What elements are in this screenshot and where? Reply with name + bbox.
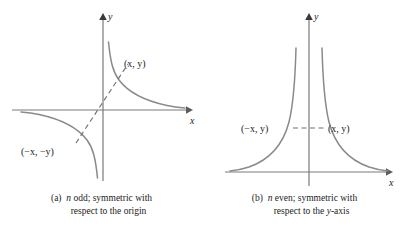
panel-a-odd: x y (x, y) (−x, −y) (a) n odd; symmetric… (0, 0, 203, 233)
caption-b-var: n (268, 193, 273, 203)
y-axis-label-a: y (107, 11, 113, 22)
caption-a-var: n (66, 193, 71, 203)
caption-b-line1: (b) n even; symmetric with (203, 192, 406, 205)
dashed-connector-a (76, 64, 128, 143)
caption-b-line2-post: -axis (331, 206, 349, 216)
caption-a-line2: respect to the origin (0, 205, 203, 218)
x-axis-arrow-a (186, 106, 193, 114)
caption-a-rest: odd; symmetric with (73, 193, 152, 203)
caption-a: (a) n odd; symmetric with respect to the… (0, 192, 203, 217)
x-axis-label-a: x (189, 115, 195, 126)
plot-b-svg: x y (−x, y) (x, y) (203, 0, 406, 190)
point-label-neg-xy-b: (−x, y) (241, 123, 268, 135)
curve-quadrant-1-a (109, 42, 186, 108)
panel-b-even: x y (−x, y) (x, y) (b) n even; symmetric… (203, 0, 406, 233)
caption-b-line2: respect to the y-axis (203, 205, 406, 218)
y-axis-label-b: y (313, 11, 319, 22)
curve-right-b (322, 48, 388, 171)
curve-quadrant-3-a (21, 112, 98, 178)
caption-a-line1: (a) n odd; symmetric with (0, 192, 203, 205)
y-axis-arrow-a (99, 13, 107, 20)
point-label-xy-b: (x, y) (328, 123, 350, 135)
curve-left-b (230, 48, 296, 171)
x-axis-arrow-b (386, 168, 393, 176)
caption-b-line2-pre: respect to the (274, 206, 327, 216)
plot-a-svg: x y (x, y) (−x, −y) (0, 0, 203, 190)
point-label-xy-a: (x, y) (124, 58, 146, 70)
figure-root: x y (x, y) (−x, −y) (a) n odd; symmetric… (0, 0, 406, 233)
caption-b-tag: (b) (252, 193, 263, 203)
caption-b: (b) n even; symmetric with respect to th… (203, 192, 406, 217)
caption-a-tag: (a) (51, 193, 62, 203)
point-label-neg-xy-a: (−x, −y) (21, 146, 54, 158)
x-axis-label-b: x (388, 177, 394, 188)
caption-b-rest: even; symmetric with (275, 193, 357, 203)
y-axis-arrow-b (305, 13, 313, 20)
